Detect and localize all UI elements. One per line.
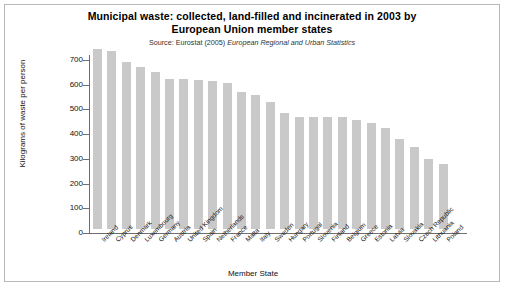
x-axis-title: Member State [5,269,501,278]
bar [122,62,131,229]
bar [395,139,404,229]
y-axis-tick-label: 700 [57,55,83,64]
chart-figure: Municipal waste: collected, land-filled … [4,4,500,282]
bar [309,117,318,229]
y-axis-tick-label: 400 [57,129,83,138]
bar [381,128,390,229]
y-axis-tick-label: 200 [57,179,83,188]
y-axis-tick-label: 300 [57,154,83,163]
bar [338,117,347,229]
bar [352,120,361,229]
bar [223,83,232,229]
bar [323,117,332,229]
bar [251,95,260,229]
bar [295,117,304,229]
chart-source-prefix: Source: Eurostat (2005) [149,38,227,47]
bar [151,72,160,229]
chart-source-publication: European Regional and Urban Statistics [227,38,355,47]
bar [165,79,174,229]
bar [107,51,116,229]
bar [194,80,203,229]
bar [424,159,433,229]
y-axis-tick-label: 0 [57,228,83,237]
y-axis-tick-labels: 0100200300400500600700 [49,5,83,288]
y-axis-tick-label: 100 [57,203,83,212]
y-axis-tick-label: 600 [57,80,83,89]
plot-area [89,60,465,229]
bar [237,92,246,229]
bar-series [89,60,465,229]
y-axis-tick-label: 500 [57,104,83,113]
bar [136,67,145,229]
bar [280,113,289,229]
bar [179,79,188,229]
bar [266,102,275,229]
bar [367,123,376,229]
y-axis-title: Kilograms of waste per person [18,39,27,189]
bar [410,147,419,229]
bar [93,49,102,229]
